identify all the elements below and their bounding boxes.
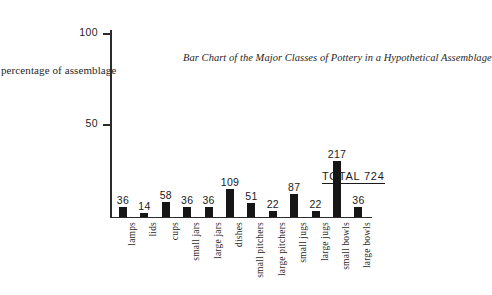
bar-value-label: 36 (117, 194, 129, 206)
bar (333, 161, 341, 216)
bar-group: 87 (290, 194, 298, 216)
x-axis-category-label: small pitchers (255, 222, 265, 278)
bar (140, 213, 148, 217)
x-axis-category-label: lids (148, 222, 158, 237)
bar-value-label: 109 (221, 176, 239, 188)
bar-group: 22 (312, 211, 320, 217)
bar (162, 202, 170, 217)
bar-value-label: 36 (202, 194, 214, 206)
bar-group: 51 (247, 203, 255, 216)
bar-value-label: 58 (160, 189, 172, 201)
x-axis-category-label: large bowls (362, 222, 372, 268)
x-axis-category-label: small jugs (298, 222, 308, 263)
x-axis-category-label: dishes (234, 222, 244, 247)
bar (354, 207, 362, 216)
bar-group: 36 (205, 207, 213, 216)
bar-value-label: 14 (138, 200, 150, 212)
bar (119, 207, 127, 216)
x-axis-category-label: lamps (127, 222, 137, 246)
bar-group: 217 (333, 161, 341, 216)
bar (205, 207, 213, 216)
x-axis-category-label: large pitchers (277, 222, 287, 276)
bar (226, 189, 234, 217)
bar-group: 36 (119, 207, 127, 216)
bar-value-label: 51 (245, 190, 257, 202)
bar-value-label: 36 (352, 194, 364, 206)
bar (247, 203, 255, 216)
x-axis-category-label: small bowls (341, 222, 351, 270)
x-axis-category-label: small jars (191, 222, 201, 261)
x-axis-category-label: cups (170, 222, 180, 240)
bar-group: 36 (183, 207, 191, 216)
bar-group: 36 (354, 207, 362, 216)
bar-value-label: 217 (328, 148, 346, 160)
bar-group: 22 (269, 211, 277, 217)
bar (290, 194, 298, 216)
bar (269, 211, 277, 217)
bar (183, 207, 191, 216)
bar-value-label: 87 (288, 181, 300, 193)
x-axis-category-label: large jars (213, 222, 223, 259)
bar-value-label: 22 (309, 198, 321, 210)
bar-group: 109 (226, 189, 234, 217)
bar-group: 58 (162, 202, 170, 217)
bar (312, 211, 320, 217)
bar-value-label: 22 (267, 198, 279, 210)
bar-value-label: 36 (181, 194, 193, 206)
x-axis-category-label: large jugs (320, 222, 330, 261)
bar-group: 14 (140, 213, 148, 217)
